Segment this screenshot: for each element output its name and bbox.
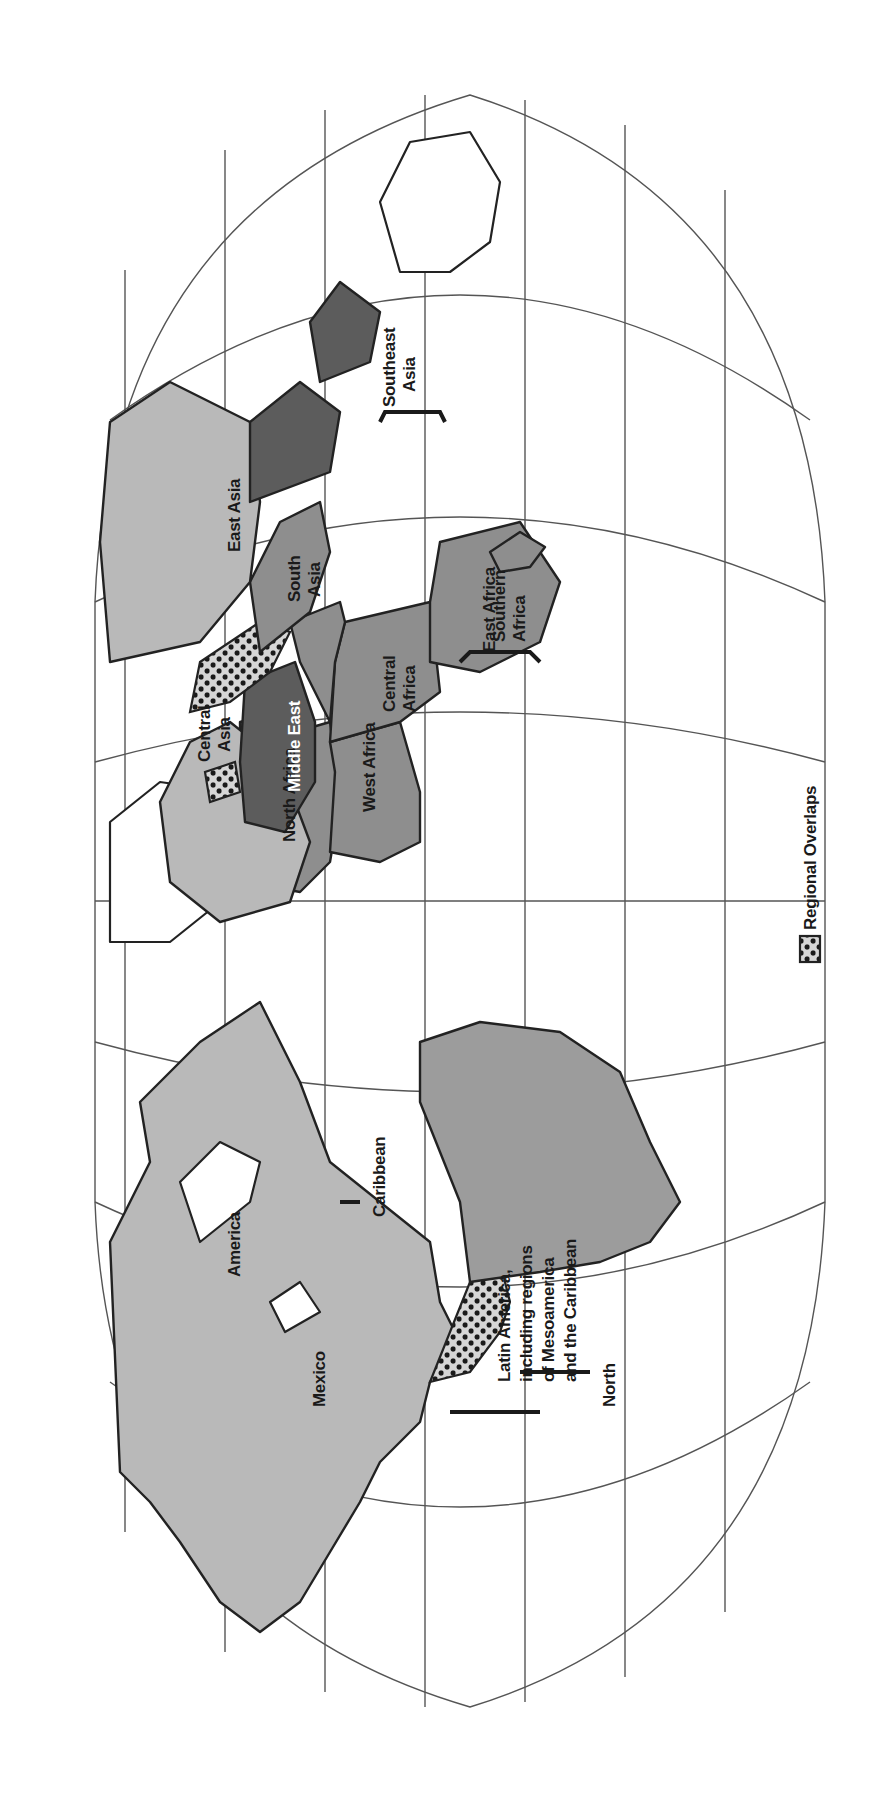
region-southeast-asia-islands bbox=[310, 282, 380, 382]
label-southern-africa-2: Africa bbox=[510, 595, 529, 642]
bracket-southeast-asia bbox=[380, 412, 445, 422]
label-southeast-asia-1: Southeast bbox=[380, 327, 399, 407]
label-south-asia-1: South bbox=[285, 555, 304, 602]
label-central-africa-2: Africa bbox=[400, 665, 419, 712]
label-central-africa-1: Central bbox=[380, 656, 399, 712]
region-australia bbox=[380, 132, 500, 272]
label-latin-america-3: of Mesoamerica bbox=[539, 1257, 558, 1382]
legend-overlap-label: Regional Overlaps bbox=[801, 786, 820, 930]
label-middle-east: Middle East bbox=[285, 700, 304, 792]
label-latin-america-4: and the Caribbean bbox=[561, 1239, 580, 1382]
legend: Regional Overlaps bbox=[800, 786, 820, 962]
label-caribbean: Caribbean bbox=[370, 1137, 389, 1217]
label-latin-america-2: including regions bbox=[517, 1245, 536, 1382]
label-south-asia-2: Asia bbox=[305, 561, 324, 597]
label-mexico: Mexico bbox=[310, 1351, 329, 1407]
region-southeast-asia-mainland bbox=[250, 382, 340, 502]
label-southeast-asia-2: Asia bbox=[400, 356, 419, 392]
label-north-america-2: America bbox=[225, 1211, 244, 1277]
label-north-america-line1: North bbox=[600, 1363, 619, 1407]
region-eurasia bbox=[100, 132, 500, 942]
label-east-asia: East Asia bbox=[225, 478, 244, 552]
label-latin-america-1: Latin America, bbox=[495, 1270, 514, 1382]
label-central-asia-1: Central bbox=[195, 706, 214, 762]
label-east-africa: East Africa bbox=[480, 566, 499, 652]
region-south-america bbox=[420, 1022, 680, 1282]
label-central-asia-2: Asia bbox=[215, 716, 234, 752]
label-west-africa: West Africa bbox=[360, 722, 379, 812]
world-regions-map: North Mexico Caribbean America Latin Ame… bbox=[0, 0, 895, 1802]
legend-dotted-swatch-icon bbox=[800, 936, 820, 962]
